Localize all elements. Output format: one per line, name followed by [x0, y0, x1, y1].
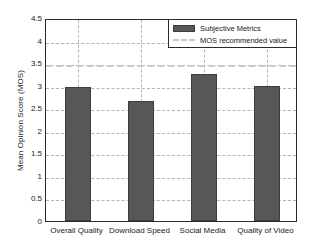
x-axis-ticks: Overall QualityDownload SpeedSocial Medi…	[45, 226, 297, 238]
y-tick-label: 1.5	[18, 150, 42, 158]
mos-reference-line	[46, 65, 296, 67]
plot-area	[45, 19, 297, 222]
legend-item-subjective-metrics: Subjective Metrics	[173, 22, 293, 34]
y-tick-label: 3	[18, 83, 42, 91]
x-tick-label: Social Media	[180, 226, 226, 236]
x-tick-label: Quality of Video	[237, 226, 293, 236]
legend-item-mos-recommended-value: MOS recommended value	[173, 34, 293, 46]
y-axis-ticks: 00.511.522.533.544.5	[15, 19, 42, 222]
y-tick-label: 2.5	[18, 105, 42, 113]
y-tick-label: 2	[18, 128, 42, 136]
legend-label: MOS recommended value	[200, 36, 287, 45]
bar	[254, 86, 280, 221]
bar	[191, 74, 217, 221]
x-tick-label: Download Speed	[109, 226, 170, 236]
bar	[128, 101, 154, 221]
legend-label: Subjective Metrics	[200, 24, 261, 33]
y-tick-label: 4.5	[18, 15, 42, 23]
y-tick-label: 4	[18, 38, 42, 46]
chart-legend: Subjective Metrics MOS recommended value	[168, 19, 297, 48]
y-tick-label: 0	[18, 218, 42, 226]
bar-chart-figure: Mean Opinion Score (MOS) 00.511.522.533.…	[0, 0, 313, 248]
x-tick-label: Overall Quality	[50, 226, 102, 236]
bar-swatch-icon	[173, 25, 195, 32]
y-tick-label: 3.5	[18, 60, 42, 68]
y-tick-label: 0.5	[18, 195, 42, 203]
bar	[65, 87, 91, 221]
dashed-line-swatch-icon	[173, 39, 195, 41]
y-tick-label: 1	[18, 173, 42, 181]
